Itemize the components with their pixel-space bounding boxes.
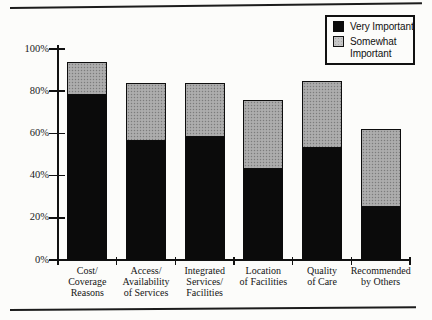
y-tick-label: 40% xyxy=(0,169,49,180)
legend: Very Important Somewhat Important xyxy=(325,15,415,65)
x-tick xyxy=(292,257,294,265)
x-tick xyxy=(175,257,177,265)
x-tick xyxy=(57,257,59,265)
y-tick-label: 100% xyxy=(0,43,49,54)
x-tick xyxy=(351,257,353,265)
legend-label-somewhat-important: Somewhat Important xyxy=(350,36,396,60)
bar-segment-somewhat-important xyxy=(243,100,283,169)
y-tick xyxy=(49,90,65,92)
bar-segment-somewhat-important xyxy=(67,62,107,95)
y-tick-label: 0% xyxy=(0,254,49,265)
legend-item-somewhat-important: Somewhat Important xyxy=(333,36,409,60)
category-label: Recommendedby Others xyxy=(344,265,418,287)
legend-label-very-important: Very Important xyxy=(350,21,414,33)
y-tick xyxy=(49,48,65,50)
legend-item-very-important: Very Important xyxy=(333,21,409,33)
bar-segment-very-important xyxy=(185,136,225,260)
y-tick xyxy=(49,133,65,135)
bar-segment-somewhat-important xyxy=(361,129,401,206)
y-tick-label: 20% xyxy=(0,211,49,222)
x-tick xyxy=(409,257,411,265)
y-axis xyxy=(57,45,59,261)
bar-segment-very-important xyxy=(361,205,401,260)
y-tick-label: 80% xyxy=(0,85,49,96)
bar-segment-somewhat-important xyxy=(126,83,166,141)
bar-segment-very-important xyxy=(126,140,166,260)
bar-segment-very-important xyxy=(67,93,107,260)
bar-segment-very-important xyxy=(302,146,342,260)
very-important-swatch-icon xyxy=(333,21,344,32)
x-tick xyxy=(116,257,118,265)
y-tick xyxy=(49,175,65,177)
category-label-line: Facilities xyxy=(168,287,242,298)
y-tick-label: 60% xyxy=(0,127,49,138)
somewhat-important-swatch-icon xyxy=(333,36,344,47)
category-label-line: by Others xyxy=(344,276,418,287)
y-tick xyxy=(49,217,65,219)
bar-segment-very-important xyxy=(243,167,283,260)
bar-segment-somewhat-important xyxy=(302,81,342,148)
x-tick xyxy=(233,257,235,265)
figure-page: 0%20%40%60%80%100%Cost/CoverageReasonsAc… xyxy=(0,0,432,320)
legend-label-line: Somewhat xyxy=(350,36,396,48)
legend-label-line: Important xyxy=(350,48,396,60)
bar-segment-somewhat-important xyxy=(185,83,225,137)
category-label-line: Recommended xyxy=(344,265,418,276)
